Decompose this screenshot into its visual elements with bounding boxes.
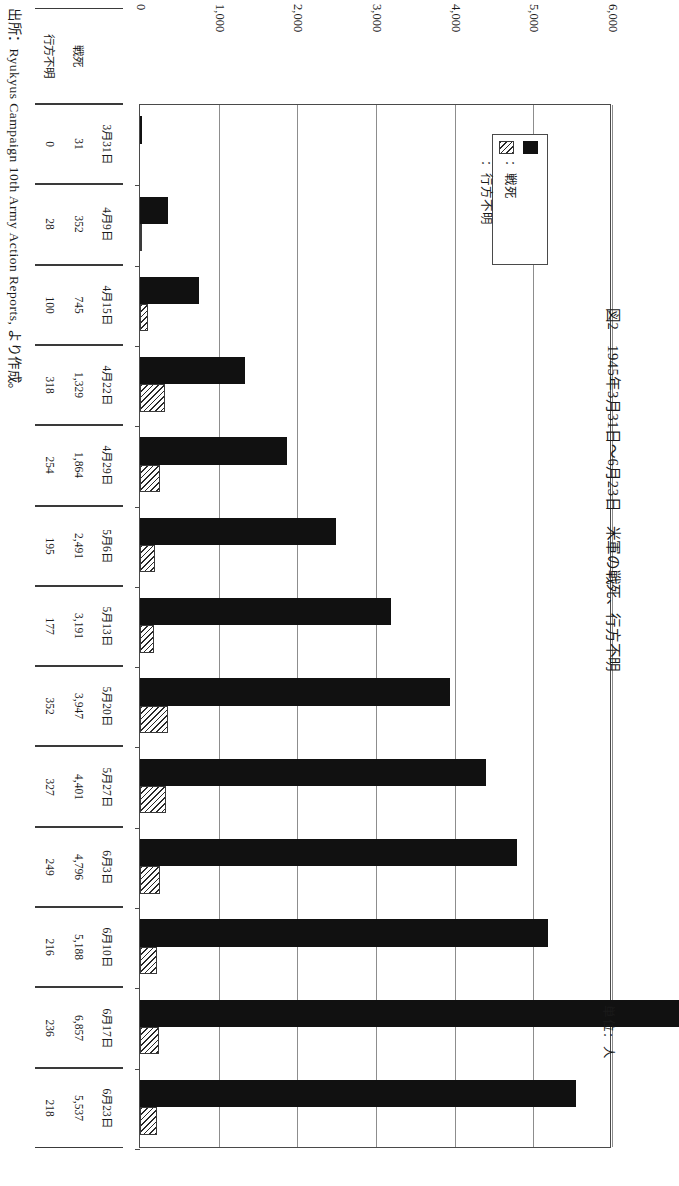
table-cell: 236 [35,987,64,1067]
axis-tick-label: 3,000 [369,4,384,32]
table-cell-value: 249 [44,858,56,875]
table-column-kia-header-label: 戦死 [71,45,87,67]
table-cell: 352 [64,184,93,264]
table-column-mia-header: 行方不明 [35,8,64,104]
bar-mia [140,1107,157,1134]
table-cell-value: 216 [44,939,56,956]
table-cell-value: 4月15日 [100,285,116,324]
table-cell: 5月6日 [93,506,123,586]
table-column-dates-header [93,8,123,104]
table-cell: 100 [35,265,64,345]
table-cell: 2,491 [64,506,93,586]
legend-entry-kia: ：戦死 [519,141,543,260]
table-cell: 5月13日 [93,586,123,666]
table-cell: 4月29日 [93,425,123,505]
table-cell: 31 [64,104,93,184]
table-cell: 745 [64,265,93,345]
table-cell-value: 195 [44,537,56,554]
data-table: 戦死313527451,3291,8642,4913,1913,9474,401… [34,8,122,1150]
table-cell-value: 0 [44,141,56,147]
bar-mia [140,545,155,572]
bar-mia [140,947,157,974]
table-cell-value: 4,401 [73,774,85,800]
axis-tick-label: 0 [133,4,148,10]
table-cell-value: 5月13日 [100,606,116,645]
table-cell: 218 [35,1068,64,1148]
figure-title: 図2 1945年3月31日〜6月23日 米軍の戦死、行方不明 [604,308,625,672]
bar-kia [140,116,142,143]
bar-mia [140,224,142,251]
table-cell: 5,188 [64,907,93,987]
table-cell-value: 745 [73,296,85,313]
table-cell: 4,796 [64,827,93,907]
table-cell: 6,857 [64,987,93,1067]
table-cell: 5,537 [64,1068,93,1148]
bar-kia [140,357,245,384]
bar-kia [140,1080,576,1107]
unit-label: 単位：人 [600,1005,619,1059]
table-cell-value: 28 [44,219,56,231]
table-cell: 177 [35,586,64,666]
table-cell-value: 6,857 [73,1015,85,1041]
legend-entry-mia: ：行方不明 [495,141,519,260]
axis-tick-label: 1,000 [212,4,227,32]
table-cell-value: 1,329 [73,372,85,398]
table-cell: 318 [35,345,64,425]
source-note: 出所：Ryukyus Campaign 10th Army Action Rep… [6,8,26,397]
table-cell-value: 327 [44,778,56,795]
bar-mia [140,1027,159,1054]
axis-tick-label: 6,000 [605,4,620,32]
bar-kia [140,277,199,304]
table-cell: 28 [35,184,64,264]
category-tick [135,1149,140,1150]
table-cell: 3,191 [64,586,93,666]
table-cell-value: 254 [44,457,56,474]
table-column-kia-header: 戦死 [64,8,93,104]
table-cell-value: 177 [44,617,56,634]
table-cell: 6月3日 [93,827,123,907]
bar-group [140,988,610,1068]
bar-mia [140,384,165,411]
bar-group [140,667,610,747]
bar-mia [140,304,148,331]
chart-legend: ：戦死 ：行方不明 [492,134,548,265]
table-cell: 4月9日 [93,184,123,264]
bar-kia [140,919,548,946]
bar-mia [140,706,168,733]
table-cell-value: 6月10日 [100,928,116,967]
table-cell-value: 352 [44,698,56,715]
bar-kia [140,598,391,625]
bar-mia [140,625,154,652]
bar-group [140,908,610,988]
table-cell-value: 5月20日 [100,687,116,726]
table-cell-value: 100 [44,296,56,313]
table-cell-value: 5月6日 [100,529,116,563]
table-cell-value: 318 [44,376,56,393]
legend-label-mia: ：行方不明 [478,160,497,225]
table-cell: 249 [35,827,64,907]
table-cell: 5月27日 [93,746,123,826]
table-cell: 6月23日 [93,1068,123,1148]
bar-group [140,1069,610,1149]
bar-group [140,426,610,506]
bar-group [140,507,610,587]
bar-mia [140,866,160,893]
table-cell: 3,947 [64,666,93,746]
table-cell-value: 2,491 [73,533,85,559]
table-cell-value: 4月22日 [100,365,116,404]
table-cell-value: 5,188 [73,934,85,960]
table-cell: 254 [35,425,64,505]
table-cell: 0 [35,104,64,184]
table-cell-value: 3,191 [73,613,85,639]
table-cell-value: 4月29日 [100,446,116,485]
table-cell: 195 [35,506,64,586]
bar-kia [140,839,517,866]
table-cell-value: 5月27日 [100,767,116,806]
table-cell-value: 218 [44,1099,56,1116]
bar-group [140,747,610,827]
bar-group [140,346,610,426]
table-cell: 3月31日 [93,104,123,184]
bar-group [140,828,610,908]
table-cell-value: 3,947 [73,693,85,719]
bar-kia [140,1000,679,1027]
